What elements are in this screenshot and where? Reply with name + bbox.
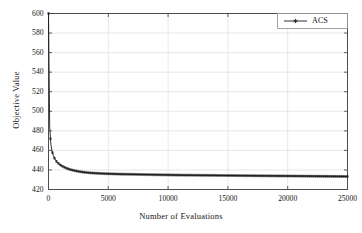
plot-frame (49, 14, 348, 190)
x-tick-label: 5000 (86, 194, 130, 203)
x-tick-label: 15000 (206, 194, 250, 203)
gridlines (49, 14, 348, 190)
y-tick-label: 440 (4, 165, 44, 174)
y-axis-title: Objective Value (11, 40, 21, 160)
x-tick-label: 10000 (146, 194, 190, 203)
y-tick-label: 600 (4, 9, 44, 18)
legend-entry-label: ACS (312, 16, 328, 25)
x-tick-label: 25000 (326, 194, 362, 203)
y-tick-label: 520 (4, 87, 44, 96)
x-tick-label: 20000 (266, 194, 310, 203)
y-tick-label: 480 (4, 126, 44, 135)
y-tick-label: 580 (4, 28, 44, 37)
y-tick-label: 540 (4, 67, 44, 76)
y-tick-label: 420 (4, 185, 44, 194)
data-series-acs (47, 12, 349, 178)
y-tick-label: 460 (4, 145, 44, 154)
y-tick-label: 560 (4, 48, 44, 57)
chart-figure: Number of Evaluations Objective Value 42… (0, 0, 362, 233)
x-tick-label: 0 (27, 194, 71, 203)
x-axis-title: Number of Evaluations (0, 211, 362, 221)
y-tick-label: 500 (4, 106, 44, 115)
axis-ticks (49, 14, 348, 190)
